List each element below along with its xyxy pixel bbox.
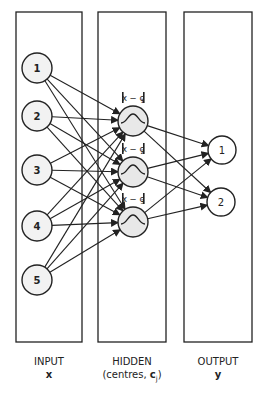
- hidden-subtitle: (centres, cj): [92, 368, 172, 386]
- svg-text:1: 1: [219, 145, 225, 156]
- connection-edge: [148, 205, 208, 219]
- connection-edge: [52, 223, 118, 226]
- hidden-node-1: x − c1: [118, 92, 148, 136]
- hidden-title: HIDDEN: [92, 355, 172, 368]
- output-node-2: 2: [207, 188, 235, 216]
- output-title: OUTPUT: [184, 355, 252, 368]
- input-node-3: 3: [22, 155, 52, 185]
- input-node-2: 2: [22, 101, 52, 131]
- svg-text:1: 1: [141, 97, 145, 104]
- svg-text:3: 3: [141, 198, 145, 205]
- input-node-1: 1: [22, 53, 52, 83]
- input-symbol: x: [16, 368, 82, 381]
- hidden-node-label-1: x − c1: [122, 92, 145, 104]
- connection-edge: [50, 230, 120, 272]
- input-title: INPUT: [16, 355, 82, 368]
- svg-text:2: 2: [218, 197, 224, 208]
- input-layer-label: INPUT x: [16, 355, 82, 381]
- hidden-node-3: x − c3: [118, 193, 148, 237]
- svg-text:5: 5: [34, 275, 41, 286]
- output-node-1: 1: [208, 136, 236, 164]
- hidden-node-label-2: x − c2: [122, 143, 145, 155]
- hidden-layer-label: HIDDEN (centres, cj): [92, 355, 172, 386]
- svg-text:1: 1: [34, 63, 41, 74]
- rbf-network-diagram: 12345x − c1x − c2x − c312: [0, 0, 265, 397]
- input-node-4: 4: [22, 211, 52, 241]
- connection-edge: [47, 127, 123, 211]
- input-node-5: 5: [22, 265, 52, 295]
- connection-edge: [50, 75, 120, 114]
- output-layer-label: OUTPUT y: [184, 355, 252, 381]
- hidden-node-label-3: x − c3: [122, 193, 145, 205]
- connection-edge: [147, 177, 208, 198]
- svg-text:4: 4: [34, 221, 41, 232]
- hidden-node-2: x − c2: [118, 143, 148, 187]
- output-symbol: y: [184, 368, 252, 381]
- connection-edge: [148, 153, 209, 168]
- svg-text:2: 2: [141, 148, 145, 155]
- svg-text:3: 3: [34, 165, 41, 176]
- connection-edge: [144, 131, 211, 192]
- connection-edge: [52, 170, 118, 171]
- svg-text:2: 2: [34, 111, 41, 122]
